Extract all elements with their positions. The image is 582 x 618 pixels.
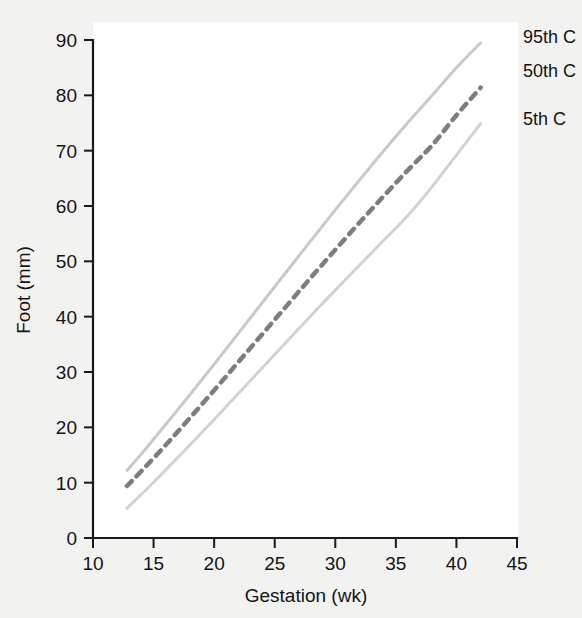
y-tick-label-90: 90 [56,30,77,51]
x-tick-label-15: 15 [143,553,164,574]
x-tick-label-30: 30 [325,553,346,574]
y-axis-title: Foot (mm) [13,246,34,334]
x-tick-label-25: 25 [264,553,285,574]
series-line-5th-c [127,124,481,509]
x-tick-label-45: 45 [506,553,527,574]
legend-label-95th: 95th C [523,28,576,46]
axis-group [84,40,517,548]
y-tick-label-0: 0 [66,528,77,549]
y-tick-label-40: 40 [56,307,77,328]
x-tick-label-20: 20 [204,553,225,574]
legend-label-5th: 5th C [523,110,566,128]
series-line-50th-c [127,88,481,486]
chart-figure: 01020304050607080901015202530354045 Gest… [0,0,582,618]
y-tick-label-20: 20 [56,417,77,438]
y-tick-label-30: 30 [56,362,77,383]
y-tick-label-80: 80 [56,85,77,106]
y-tick-label-70: 70 [56,141,77,162]
x-axis-title: Gestation (wk) [245,585,367,606]
x-tick-label-10: 10 [82,553,103,574]
series-group [127,43,481,508]
tick-label-group: 01020304050607080901015202530354045 [56,30,528,574]
chart-svg: 01020304050607080901015202530354045 Gest… [0,0,582,618]
y-tick-label-60: 60 [56,196,77,217]
y-tick-label-50: 50 [56,251,77,272]
y-tick-label-10: 10 [56,473,77,494]
legend-label-50th: 50th C [523,62,576,80]
x-tick-label-40: 40 [446,553,467,574]
series-line-95th-c [127,43,481,471]
x-tick-label-35: 35 [385,553,406,574]
